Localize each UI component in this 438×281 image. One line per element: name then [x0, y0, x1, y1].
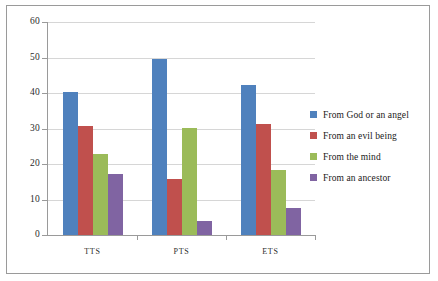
legend-item[interactable]: From God or an angel	[310, 104, 430, 125]
legend-label: From an evil being	[323, 131, 397, 141]
y-axis-tick	[42, 129, 47, 130]
chart-legend: From God or an angelFrom an evil beingFr…	[310, 104, 430, 188]
legend-label: From the mind	[323, 152, 381, 162]
y-axis-tick-label: 10	[12, 195, 40, 205]
bar[interactable]	[256, 124, 271, 235]
y-axis-tick	[42, 93, 47, 94]
bar[interactable]	[182, 128, 197, 235]
bar[interactable]	[167, 179, 182, 235]
y-axis-tick	[42, 200, 47, 201]
bar[interactable]	[271, 170, 286, 235]
legend-swatch-icon	[310, 153, 317, 160]
legend-item[interactable]: From an evil being	[310, 125, 430, 146]
y-axis-tick	[42, 235, 47, 236]
chart-frame: 0102030405060 From God or an angelFrom a…	[6, 5, 430, 274]
x-axis-category-label-pts: PTS	[152, 247, 212, 256]
bar[interactable]	[241, 85, 256, 235]
bar[interactable]	[93, 154, 108, 235]
y-axis-tick-label: 40	[12, 88, 40, 98]
y-axis-tick	[42, 58, 47, 59]
bar[interactable]	[63, 92, 78, 235]
y-axis-tick-labels: 0102030405060	[7, 22, 40, 235]
x-axis-category-label-ets: ETS	[241, 247, 301, 256]
legend-item[interactable]: From an ancestor	[310, 167, 430, 188]
y-axis-tick	[42, 22, 47, 23]
bar-group-ets	[241, 22, 301, 235]
bar-group-pts	[152, 22, 212, 235]
legend-item[interactable]: From the mind	[310, 146, 430, 167]
bar[interactable]	[152, 59, 167, 235]
y-axis-tick-label: 50	[12, 53, 40, 63]
plot-area	[48, 22, 315, 235]
x-axis-tick	[315, 235, 316, 240]
x-axis-tick	[137, 235, 138, 240]
gridline	[48, 235, 315, 236]
legend-label: From an ancestor	[323, 173, 391, 183]
x-axis-category-label-tts: TTS	[63, 247, 123, 256]
y-axis-tick-label: 60	[12, 17, 40, 27]
y-axis-tick	[42, 164, 47, 165]
y-axis-tick-label: 20	[12, 159, 40, 169]
x-axis-tick	[226, 235, 227, 240]
bar[interactable]	[286, 208, 301, 235]
bar[interactable]	[78, 126, 93, 235]
legend-swatch-icon	[310, 111, 317, 118]
legend-swatch-icon	[310, 174, 317, 181]
y-axis-tick-label: 30	[12, 124, 40, 134]
bar[interactable]	[108, 174, 123, 235]
bar[interactable]	[197, 221, 212, 235]
legend-label: From God or an angel	[323, 110, 409, 120]
y-axis-tick-label: 0	[12, 230, 40, 240]
legend-swatch-icon	[310, 132, 317, 139]
bar-group-tts	[63, 22, 123, 235]
